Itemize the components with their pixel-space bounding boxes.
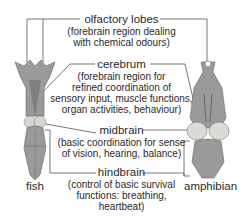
label-desc: with chemical odours) — [0, 37, 243, 48]
label-desc: organ activities, behaviour) — [0, 104, 243, 115]
label-desc: sensory input, muscle functions, — [0, 93, 243, 104]
label-desc: (forebrain region dealing — [0, 26, 243, 37]
label-title: cerebrum — [0, 58, 243, 71]
label-olfactory-lobes: olfactory lobes (forebrain region dealin… — [0, 13, 243, 48]
label-desc: heartbeat) — [0, 201, 243, 212]
label-amphibian: amphibian — [184, 180, 237, 192]
label-fish: fish — [26, 180, 44, 192]
label-title: olfactory lobes — [0, 13, 243, 26]
label-desc: of vision, hearing, balance) — [0, 148, 243, 159]
label-title: hindbrain — [0, 166, 243, 179]
label-title: midbrain — [0, 124, 243, 137]
label-midbrain: midbrain (basic coordination for sense o… — [0, 124, 243, 159]
label-cerebrum: cerebrum (forebrain region for refined c… — [0, 58, 243, 115]
label-desc: (basic coordination for sense — [0, 137, 243, 148]
label-desc: refined coordination of — [0, 82, 243, 93]
label-desc: (forebrain region for — [0, 71, 243, 82]
